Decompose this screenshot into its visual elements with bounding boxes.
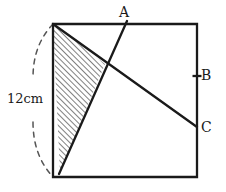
point-label-a: A xyxy=(119,5,129,19)
dashed-arc-upper xyxy=(33,24,53,78)
hatched-triangle xyxy=(53,24,105,173)
point-label-b: B xyxy=(201,68,211,82)
dashed-arc-lower xyxy=(33,122,53,177)
length-label-12cm: 12cm xyxy=(7,92,43,105)
geometry-figure: A B C 12cm xyxy=(0,0,226,192)
point-label-c: C xyxy=(201,120,212,134)
